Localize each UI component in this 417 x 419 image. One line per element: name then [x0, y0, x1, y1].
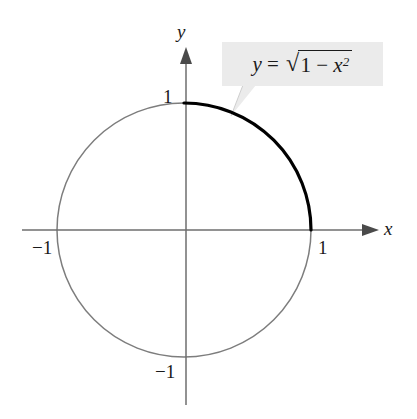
equation-text: y = √ 1 − x 2	[253, 50, 353, 78]
radicand-exponent: 2	[343, 54, 350, 70]
tick-label-y-bottom: −1	[155, 362, 175, 381]
radicand: 1 − x 2	[298, 50, 352, 78]
radical-expression: √ 1 − x 2	[286, 50, 352, 78]
equation-lhs: y	[253, 52, 263, 77]
figure-canvas: y x 1 −1 −1 1 y = √ 1 − x 2	[0, 0, 417, 419]
y-axis-label: y	[177, 22, 185, 41]
radicand-operator: −	[316, 53, 328, 78]
y-axis-arrowhead	[180, 47, 192, 64]
callout-pointer	[231, 85, 256, 116]
radical-sign: √	[286, 51, 299, 79]
highlighted-arc	[184, 103, 311, 230]
equation-equals: =	[267, 52, 279, 77]
radicand-variable: x	[333, 53, 343, 78]
x-axis-arrowhead	[362, 224, 379, 236]
tick-label-x-right: 1	[318, 238, 328, 257]
equation-callout: y = √ 1 − x 2	[222, 42, 383, 86]
tick-label-y-top: 1	[163, 87, 173, 106]
radicand-first-term: 1	[300, 53, 311, 78]
x-axis-label: x	[384, 219, 392, 238]
tick-label-x-left: −1	[32, 238, 52, 257]
